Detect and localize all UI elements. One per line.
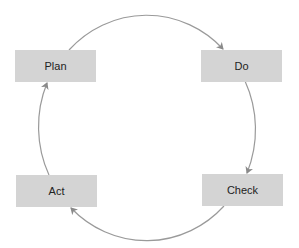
arrow-act-to-plan	[39, 83, 49, 175]
node-check-label: Check	[227, 184, 258, 196]
arrow-do-to-check	[245, 81, 255, 173]
node-act-label: Act	[49, 185, 65, 197]
cycle-arrows	[0, 0, 299, 248]
arrow-check-to-act	[71, 206, 224, 241]
node-do-label: Do	[234, 60, 248, 72]
node-act: Act	[16, 175, 97, 207]
node-plan-label: Plan	[44, 60, 66, 72]
arrow-plan-to-do	[69, 15, 223, 50]
node-do: Do	[201, 50, 282, 82]
node-check: Check	[202, 174, 283, 206]
node-plan: Plan	[15, 50, 96, 82]
